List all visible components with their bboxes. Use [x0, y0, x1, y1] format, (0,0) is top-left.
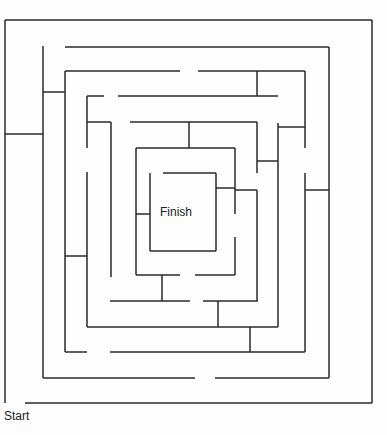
- start-label: Start: [4, 409, 29, 423]
- finish-label: Finish: [160, 205, 192, 219]
- maze: [0, 0, 387, 435]
